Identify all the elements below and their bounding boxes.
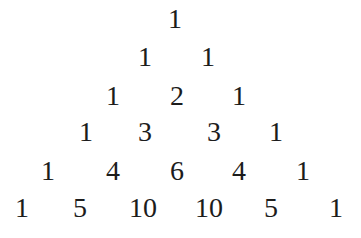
pascals-triangle: 1 1 1 1 2 1 1 3 3 1 1 4 6 4 1 1 5 10 10 … xyxy=(0,0,361,238)
triangle-entry: 1 xyxy=(201,43,215,71)
triangle-entry: 3 xyxy=(138,118,152,146)
triangle-entry: 1 xyxy=(15,194,29,222)
triangle-entry: 3 xyxy=(207,118,221,146)
triangle-entry: 1 xyxy=(138,43,152,71)
triangle-entry: 1 xyxy=(106,82,120,110)
triangle-entry: 2 xyxy=(170,82,184,110)
triangle-entry: 1 xyxy=(269,118,283,146)
triangle-entry: 1 xyxy=(168,5,182,33)
triangle-entry: 10 xyxy=(195,194,223,222)
triangle-entry: 5 xyxy=(73,194,87,222)
triangle-entry: 1 xyxy=(79,118,93,146)
triangle-entry: 1 xyxy=(329,194,343,222)
triangle-entry: 1 xyxy=(41,157,55,185)
triangle-entry: 4 xyxy=(232,157,246,185)
triangle-entry: 5 xyxy=(264,194,278,222)
triangle-entry: 1 xyxy=(296,157,310,185)
triangle-entry: 1 xyxy=(232,82,246,110)
triangle-entry: 4 xyxy=(106,157,120,185)
triangle-entry: 10 xyxy=(129,194,157,222)
triangle-entry: 6 xyxy=(170,157,184,185)
